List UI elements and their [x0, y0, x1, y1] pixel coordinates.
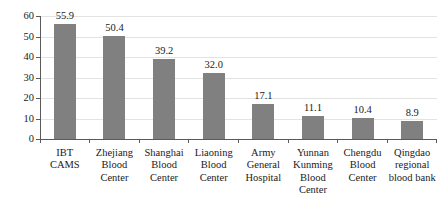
category-label-line: CAMS: [40, 159, 90, 171]
bar-value-label: 39.2: [144, 46, 184, 57]
x-tick-5: [288, 139, 289, 143]
category-label-line: Center: [90, 172, 140, 184]
gridline-50: [40, 37, 437, 38]
bar-value-label: 8.9: [392, 108, 432, 119]
y-axis-line: [40, 16, 41, 139]
bar-value-label: 10.4: [343, 105, 383, 116]
y-tick-20: [36, 98, 40, 99]
x-tick-3: [188, 139, 189, 143]
category-label-line: General: [239, 159, 289, 171]
category-label: YunnanKunmingBloodCenter: [288, 147, 338, 196]
category-label: ArmyGeneralHospital: [239, 147, 289, 184]
y-tick-label-20: 20: [0, 93, 34, 103]
gridline-40: [40, 57, 437, 58]
x-tick-4: [238, 139, 239, 143]
y-tick-60: [36, 16, 40, 17]
plot-area: [40, 16, 437, 139]
gridline-20: [40, 98, 437, 99]
bar-value-label: 17.1: [243, 91, 283, 102]
category-label: ZhejiangBloodCenter: [90, 147, 140, 184]
category-label-line: Chengdu: [338, 147, 388, 159]
bar: [302, 116, 324, 139]
bar-value-label: 32.0: [194, 60, 234, 71]
category-label-line: Center: [338, 172, 388, 184]
x-tick-7: [387, 139, 388, 143]
y-tick-30: [36, 78, 40, 79]
category-label-line: Blood: [189, 159, 239, 171]
bar: [203, 73, 225, 139]
bar-value-label: 55.9: [45, 11, 85, 22]
category-label-line: Blood: [338, 159, 388, 171]
category-label-line: regional: [387, 159, 437, 171]
category-label-line: Liaoning: [189, 147, 239, 159]
x-tick-0: [40, 139, 41, 143]
category-label-line: Zhejiang: [90, 147, 140, 159]
category-label: ChengduBloodCenter: [338, 147, 388, 184]
category-label-line: Center: [139, 172, 189, 184]
x-tick-6: [337, 139, 338, 143]
y-tick-label-0: 0: [0, 134, 34, 144]
gridline-30: [40, 78, 437, 79]
bar: [153, 59, 175, 139]
category-label-line: Hospital: [239, 172, 289, 184]
y-tick-label-40: 40: [0, 52, 34, 62]
bar: [352, 118, 374, 139]
bar: [54, 24, 76, 139]
x-tick-1: [89, 139, 90, 143]
category-label-line: Blood: [90, 159, 140, 171]
category-label-line: Yunnan: [288, 147, 338, 159]
category-label: LiaoningBloodCenter: [189, 147, 239, 184]
bar-chart: 60 50 40 30 20 10 0 55.950.439.232.017.1…: [0, 0, 445, 207]
category-label-line: blood bank: [387, 172, 437, 184]
y-tick-40: [36, 57, 40, 58]
x-tick-2: [139, 139, 140, 143]
bar: [252, 104, 274, 139]
category-label: Qingdaoregionalblood bank: [387, 147, 437, 184]
bar: [401, 121, 423, 139]
category-label-line: Shanghai: [139, 147, 189, 159]
category-label-line: IBT: [40, 147, 90, 159]
category-label: IBTCAMS: [40, 147, 90, 172]
y-tick-50: [36, 37, 40, 38]
bar: [103, 36, 125, 139]
category-label-line: Blood: [288, 172, 338, 184]
category-label: ShanghaiBloodCenter: [139, 147, 189, 184]
gridline-60: [40, 16, 437, 17]
y-tick-label-10: 10: [0, 114, 34, 124]
y-tick-label-50: 50: [0, 32, 34, 42]
category-label-line: Kunming: [288, 159, 338, 171]
y-tick-10: [36, 119, 40, 120]
bar-value-label: 50.4: [94, 23, 134, 34]
category-label-line: Army: [239, 147, 289, 159]
bar-value-label: 11.1: [293, 103, 333, 114]
y-tick-label-60: 60: [0, 11, 34, 21]
category-label-line: Center: [288, 184, 338, 196]
y-tick-label-30: 30: [0, 73, 34, 83]
category-label-line: Blood: [139, 159, 189, 171]
x-tick-8: [436, 139, 437, 143]
category-label-line: Qingdao: [387, 147, 437, 159]
category-label-line: Center: [189, 172, 239, 184]
gridline-10: [40, 119, 437, 120]
